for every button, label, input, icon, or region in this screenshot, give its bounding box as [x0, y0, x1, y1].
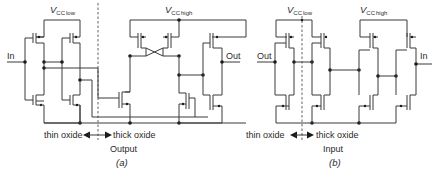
- diagram-a: VCClow VCChigh In Out: [7, 3, 246, 168]
- output-label-b: Out: [257, 51, 272, 61]
- thin-oxide-label-b: thin oxide: [246, 130, 285, 140]
- vcc-high-label-a: VCChigh: [165, 4, 192, 16]
- vcc-high-label-b: VCChigh: [360, 4, 387, 16]
- vcc-low-label-a: VCClow: [50, 4, 76, 16]
- input-label-b: In: [420, 51, 428, 61]
- output-type-label: Output: [110, 144, 138, 154]
- thin-oxide-label-a: thin oxide: [44, 130, 83, 140]
- input-label-a: In: [7, 51, 15, 61]
- output-label-a: Out: [226, 51, 241, 61]
- vcc-low-label-b: VCClow: [287, 4, 313, 16]
- caption-a: (a): [116, 157, 128, 168]
- diagram-b: VCClow VCChigh Out In: [246, 4, 432, 168]
- input-type-label: Input: [323, 144, 344, 154]
- level-shifter-schematics: VCClow VCChigh In Out: [0, 0, 438, 176]
- thick-oxide-label-a: thick oxide: [113, 130, 156, 140]
- caption-b: (b): [329, 157, 341, 168]
- thick-oxide-label-b: thick oxide: [316, 130, 359, 140]
